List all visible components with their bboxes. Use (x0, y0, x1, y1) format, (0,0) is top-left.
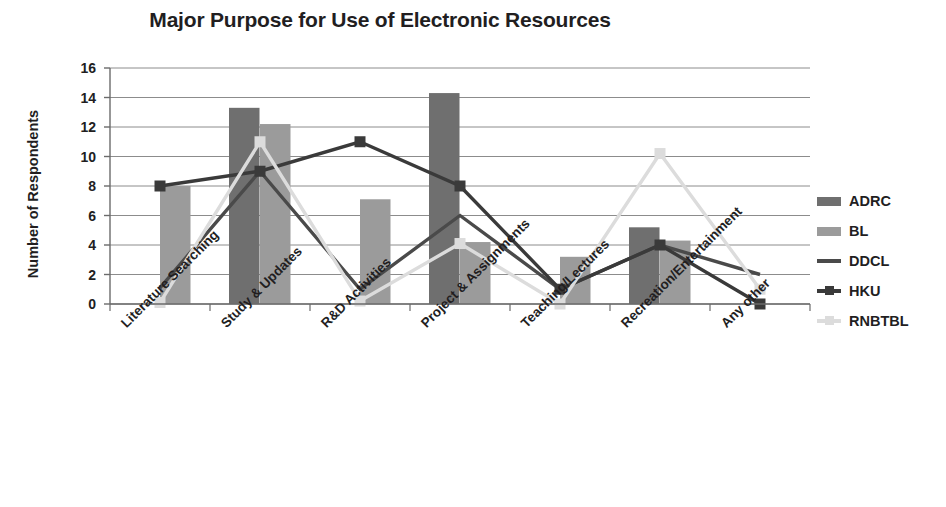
legend-item-label: DDCL (849, 254, 889, 269)
y-tick-label: 0 (58, 297, 96, 311)
y-tick-label: 8 (58, 179, 96, 193)
y-tick-label: 4 (58, 238, 96, 252)
legend-item-label: HKU (849, 284, 880, 299)
data-point-marker (655, 240, 666, 251)
data-point-marker (155, 181, 166, 192)
bar-series-group (160, 93, 691, 304)
legend-marker-swatch (825, 286, 834, 295)
y-tick-label: 10 (58, 150, 96, 164)
legend-item-label: RNBTBL (849, 314, 909, 329)
legend-item-bl[interactable]: BL (816, 216, 946, 246)
chart-title: Major Purpose for Use of Electronic Reso… (0, 8, 760, 32)
legend-item-rnbtbl[interactable]: RNBTBL (816, 306, 946, 336)
data-point-marker (455, 181, 466, 192)
legend-item-label: BL (849, 224, 868, 239)
chart-container: Major Purpose for Use of Electronic Reso… (0, 0, 946, 507)
legend-bar-swatch (817, 227, 841, 236)
data-point-marker (255, 166, 266, 177)
y-tick-label: 6 (58, 209, 96, 223)
data-point-marker (255, 136, 266, 147)
plot-area (110, 68, 810, 304)
plot-svg (110, 68, 810, 304)
legend-item-label: ADRC (849, 194, 891, 209)
legend-swatch-icon (816, 278, 842, 304)
chart-legend: ADRCBLDDCLHKURNBTBL (816, 186, 946, 336)
data-point-marker (455, 238, 466, 249)
y-tick-label: 16 (58, 61, 96, 75)
y-axis-title: Number of Respondents (25, 94, 41, 294)
legend-item-ddcl[interactable]: DDCL (816, 246, 946, 276)
y-tick-label: 12 (58, 120, 96, 134)
bar (429, 93, 460, 304)
data-point-marker (355, 136, 366, 147)
legend-item-adrc[interactable]: ADRC (816, 186, 946, 216)
legend-swatch-icon (816, 248, 842, 274)
legend-swatch-icon (816, 308, 842, 334)
y-tick-label: 2 (58, 268, 96, 282)
legend-swatch-icon (816, 218, 842, 244)
legend-marker-swatch (825, 316, 834, 325)
data-point-marker (655, 148, 666, 159)
legend-line-swatch (817, 259, 841, 263)
y-tick-label: 14 (58, 91, 96, 105)
legend-item-hku[interactable]: HKU (816, 276, 946, 306)
legend-swatch-icon (816, 188, 842, 214)
legend-bar-swatch (817, 197, 841, 206)
